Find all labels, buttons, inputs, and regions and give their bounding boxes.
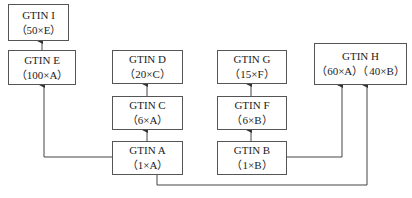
node-quantity: （20×C）: [124, 67, 171, 82]
node-title: GTIN A: [129, 143, 165, 158]
node-quantity: （60×A）（40×B）: [316, 64, 405, 79]
node-title: GTIN C: [129, 98, 165, 113]
node-title: GTIN G: [234, 52, 271, 67]
node-quantity: （6×B）: [231, 113, 272, 128]
node-title: GTIN B: [234, 143, 270, 158]
node-quantity: （6×A）: [127, 113, 169, 128]
node-title: GTIN I: [22, 8, 55, 23]
node-quantity: （100×A）: [16, 68, 69, 83]
node-title: GTIN D: [129, 52, 166, 67]
node-quantity: （1×A）: [127, 158, 169, 173]
node-gtin-a: GTIN A （1×A）: [112, 141, 183, 175]
edge-b-to-h: [286, 85, 342, 157]
node-gtin-d: GTIN D （20×C）: [112, 50, 183, 84]
node-title: GTIN E: [24, 53, 60, 68]
node-quantity: （15×F）: [229, 67, 274, 82]
node-quantity: （50×E）: [16, 23, 62, 38]
node-gtin-i: GTIN I （50×E）: [8, 4, 69, 41]
node-title: GTIN H: [342, 49, 379, 64]
node-gtin-f: GTIN F （6×B）: [217, 96, 287, 130]
node-title: GTIN F: [234, 98, 269, 113]
node-gtin-e: GTIN E （100×A）: [8, 50, 76, 85]
node-gtin-b: GTIN B （1×B）: [217, 141, 287, 175]
edge-a-to-e: [44, 85, 112, 157]
node-gtin-h: GTIN H （60×A）（40×B）: [314, 43, 407, 85]
node-quantity: （1×B）: [231, 158, 272, 173]
node-gtin-g: GTIN G （15×F）: [217, 50, 287, 84]
node-gtin-c: GTIN C （6×A）: [112, 96, 183, 130]
